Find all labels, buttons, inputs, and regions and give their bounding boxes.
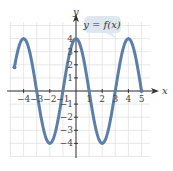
x-tick-label: 1: [86, 94, 92, 104]
x-tick-label: 4: [126, 94, 132, 104]
y-axis-label: y: [72, 6, 79, 17]
x-tick-label: 5: [139, 94, 145, 104]
x-tick-label: −3: [30, 94, 44, 104]
function-graph: −4−3−2−1123454321−1−2−3−4 y = f(x) y x: [0, 0, 173, 171]
y-tick-label: 3: [67, 47, 73, 57]
y-tick-label: −3: [60, 125, 74, 135]
x-tick-label: −2: [43, 94, 56, 104]
x-tick-label: 2: [99, 94, 105, 104]
y-tick-label: −2: [60, 112, 73, 122]
y-tick-label: 1: [67, 73, 73, 83]
x-axis-label: x: [162, 85, 168, 96]
x-tick-label: 3: [112, 94, 118, 104]
y-tick-label: 4: [67, 34, 73, 44]
y-tick-label: 2: [67, 60, 73, 70]
annotation-label: y = f(x): [82, 19, 121, 30]
axes: [7, 14, 159, 158]
x-tick-label: −4: [17, 94, 31, 104]
y-tick-label: −1: [60, 99, 73, 109]
y-tick-label: −4: [60, 138, 74, 148]
